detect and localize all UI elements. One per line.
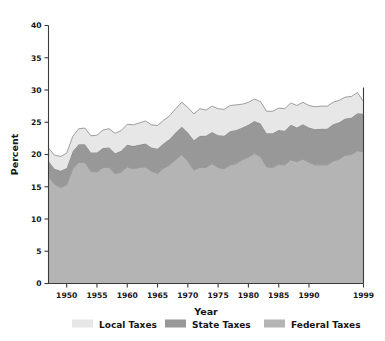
legend-swatch (72, 320, 93, 328)
y-tick-label: 35 (31, 54, 42, 63)
legend-item-federal-taxes: Federal Taxes (264, 320, 360, 330)
x-tick-label: 1990 (298, 291, 319, 300)
stacked-area-chart: 0510152025303540195019551960196519701975… (0, 0, 385, 341)
x-tick-label: 1955 (86, 291, 107, 300)
x-tick-label: 1960 (117, 291, 138, 300)
legend-item-state-taxes: State Taxes (165, 320, 251, 330)
legend-swatch (264, 320, 285, 328)
y-tick-label: 25 (31, 118, 42, 127)
legend-item-local-taxes: Local Taxes (72, 320, 157, 330)
legend-label: State Taxes (192, 320, 251, 330)
legend-label: Federal Taxes (291, 320, 360, 330)
y-tick-label: 10 (31, 215, 42, 224)
y-tick-label: 40 (31, 21, 42, 30)
y-tick-label: 20 (31, 150, 42, 159)
legend-label: Local Taxes (99, 320, 157, 330)
y-tick-label: 0 (36, 279, 41, 288)
x-tick-label: 1975 (208, 291, 229, 300)
chart-canvas: 0510152025303540195019551960196519701975… (0, 0, 385, 341)
legend-swatch (165, 320, 186, 328)
x-axis-title: Year (193, 306, 218, 317)
x-tick-label: 1980 (238, 291, 259, 300)
y-axis-title: Percent (9, 133, 20, 175)
x-tick-label: 1950 (56, 291, 77, 300)
x-tick-label: 1965 (147, 291, 168, 300)
y-tick-label: 5 (36, 247, 41, 256)
x-tick-label: 1985 (268, 291, 289, 300)
x-tick-label: 1999 (353, 291, 374, 300)
y-tick-label: 15 (31, 183, 42, 192)
x-tick-label: 1970 (177, 291, 198, 300)
y-tick-label: 30 (31, 86, 42, 95)
